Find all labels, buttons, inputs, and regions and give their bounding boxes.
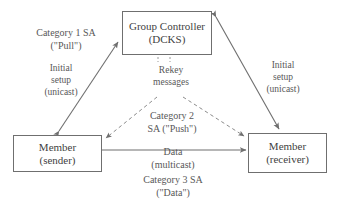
label-category-3-sa-line2: ("Data") <box>118 187 228 200</box>
label-initial-setup-right-line1: Initial <box>252 60 314 72</box>
node-member-sender-line2: (sender) <box>39 154 75 167</box>
label-initial-setup-right-line2: setup <box>252 72 314 84</box>
label-category-2-sa-line2: SA ("Push") <box>126 123 218 136</box>
label-initial-setup-left-line3: (unicast) <box>30 87 92 99</box>
label-initial-setup-right: Initial setup (unicast) <box>252 60 314 96</box>
label-category-1-sa-line2: ("Pull") <box>18 40 114 53</box>
label-initial-setup-left-line1: Initial <box>30 63 92 75</box>
node-member-receiver-line1: Member <box>269 140 306 153</box>
label-data-multicast: Data (multicast) <box>132 146 214 171</box>
label-category-1-sa: Category 1 SA ("Pull") <box>18 27 114 52</box>
node-group-controller-line2: (DCKS) <box>149 33 186 46</box>
label-initial-setup-right-line3: (unicast) <box>252 84 314 96</box>
node-member-sender-line1: Member <box>39 141 76 154</box>
label-category-3-sa: Category 3 SA ("Data") <box>118 174 228 199</box>
node-group-controller-line1: Group Controller <box>129 20 205 33</box>
diagram-canvas: Group Controller (DCKS) Member (sender) … <box>0 0 344 210</box>
label-rekey-messages-line2: messages <box>133 77 209 89</box>
label-initial-setup-left: Initial setup (unicast) <box>30 63 92 99</box>
label-rekey-messages-line1: Rekey <box>133 65 209 77</box>
label-category-2-sa: Category 2 SA ("Push") <box>126 110 218 135</box>
node-member-receiver[interactable]: Member (receiver) <box>248 133 327 173</box>
node-member-sender[interactable]: Member (sender) <box>13 135 102 172</box>
label-data-multicast-line2: (multicast) <box>132 159 214 172</box>
label-rekey-messages: Rekey messages <box>133 65 209 89</box>
node-group-controller[interactable]: Group Controller (DCKS) <box>122 11 212 55</box>
label-data-multicast-line1: Data <box>132 146 214 159</box>
label-category-1-sa-line1: Category 1 SA <box>18 27 114 40</box>
label-initial-setup-left-line2: setup <box>30 75 92 87</box>
node-member-receiver-line2: (receiver) <box>266 153 309 166</box>
label-category-3-sa-line1: Category 3 SA <box>118 174 228 187</box>
label-category-2-sa-line1: Category 2 <box>126 110 218 123</box>
